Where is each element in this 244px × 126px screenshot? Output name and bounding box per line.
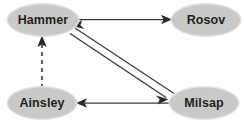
edge-milsap-to-ainsley [76, 98, 170, 107]
diagram-canvas: Hammer Rosov Ainsley Milsap [0, 0, 244, 126]
edge-milsap-to-hammer-line [75, 28, 174, 94]
node-ainsley[interactable]: Ainsley [7, 86, 78, 120]
edge-ainsley-to-hammer [37, 36, 46, 89]
node-milsap[interactable]: Milsap [169, 86, 240, 120]
node-milsap-label: Milsap [184, 96, 224, 110]
node-rosov-label: Rosov [187, 13, 226, 27]
node-hammer[interactable]: Hammer [7, 3, 80, 37]
edge-hammer-to-milsap [70, 34, 169, 105]
edge-hammer-to-rosov [76, 15, 172, 24]
node-ainsley-label: Ainsley [19, 96, 64, 110]
edge-hammer-to-milsap-line [70, 34, 166, 98]
edge-milsap-to-hammer [72, 20, 175, 93]
graph-svg: Hammer Rosov Ainsley Milsap [0, 0, 244, 126]
node-hammer-label: Hammer [18, 13, 69, 27]
node-rosov[interactable]: Rosov [171, 3, 242, 37]
